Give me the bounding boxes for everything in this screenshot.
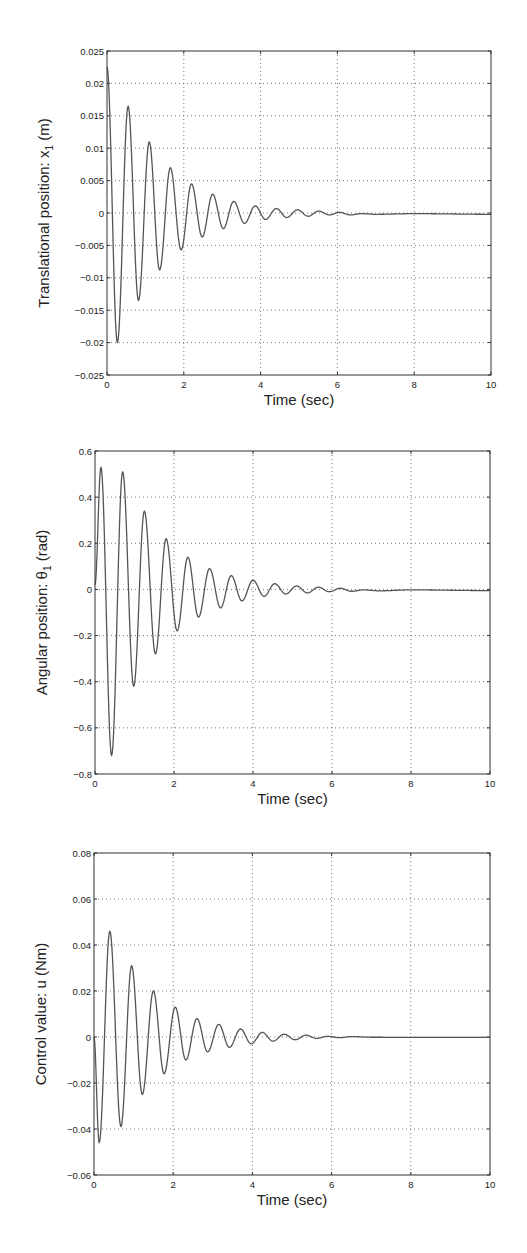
y-axis-label: Control value: u (Nm): [32, 943, 49, 1086]
y-tick-label: −0.06: [67, 1170, 91, 1181]
x-axis-label: Time (sec): [257, 1191, 327, 1208]
y-tick-label: −0.02: [67, 1078, 91, 1089]
y-tick-label: 0.02: [73, 986, 92, 997]
data-line: [94, 931, 490, 1143]
y-tick-label: 0: [86, 1032, 91, 1043]
axes-frame: [94, 853, 490, 1175]
chart-svg-2: 0246810−0.06−0.04−0.0200.020.040.060.08T…: [0, 0, 527, 1253]
plot-control-value: 0246810−0.06−0.04−0.0200.020.040.060.08T…: [0, 0, 527, 1253]
y-tick-label: −0.04: [67, 1124, 91, 1135]
y-tick-label: 0.08: [73, 848, 92, 859]
x-tick-label: 8: [408, 1179, 413, 1190]
x-tick-label: 4: [250, 1179, 255, 1190]
x-tick-label: 2: [171, 1179, 176, 1190]
x-tick-label: 6: [329, 1179, 334, 1190]
x-tick-label: 0: [91, 1179, 96, 1190]
x-tick-label: 10: [485, 1179, 496, 1190]
y-tick-label: 0.04: [73, 940, 92, 951]
y-tick-label: 0.06: [73, 894, 92, 905]
